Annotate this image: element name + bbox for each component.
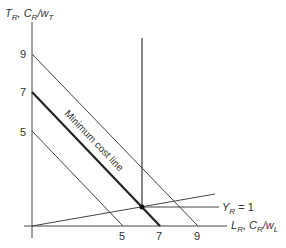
x-tick-5: 5 [119, 230, 125, 242]
y-tick-7: 7 [20, 86, 26, 98]
y-tick-9: 9 [20, 48, 26, 60]
y-axis-title: TR, CR/wT [5, 7, 54, 22]
y-tick-5: 5 [20, 126, 26, 138]
isoquant-label: YR = 1 [222, 201, 254, 216]
isocost-line-5 [32, 131, 123, 226]
optimum-point [140, 205, 145, 210]
x-tick-9: 9 [194, 230, 200, 242]
minimum-cost-line-label: Minimum cost line [63, 108, 127, 174]
expansion-ray [32, 194, 215, 226]
x-axis-title: LR, CR/wL [231, 219, 278, 234]
isocost-line-9 [32, 54, 198, 226]
x-tick-7: 7 [156, 230, 162, 242]
diagram-canvas: TR, CR/wT 9 7 5 5 7 9 LR, CR/wL YR = 1 M… [0, 0, 286, 248]
